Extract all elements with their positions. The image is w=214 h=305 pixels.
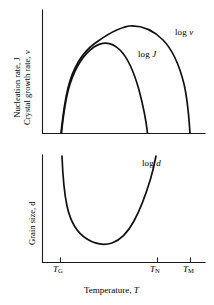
bottom-y-axis-label: Grain size, d <box>27 201 37 245</box>
x-axis-label: Temperature, T <box>84 285 139 295</box>
top-panel-curves <box>61 26 190 133</box>
log-d-curve <box>62 156 156 244</box>
figure-canvas <box>0 0 214 305</box>
log-J-curve <box>62 43 148 133</box>
tick-label-TG: TG <box>53 264 63 274</box>
log-v-curve-label: log v <box>175 27 193 37</box>
top-y-axis-label-line1: Nucleation rate, J <box>12 50 22 125</box>
bottom-panel-curves <box>62 156 156 244</box>
top-y-axis-label-line2: Crystal growth rate, v <box>22 50 32 125</box>
x-axis-ticks <box>61 258 191 263</box>
log-J-curve-label: log J <box>138 49 156 59</box>
log-v-curve <box>61 26 190 133</box>
figure-container: Nucleation rate, J Crystal growth rate, … <box>0 0 214 305</box>
tick-label-TN: TN <box>150 264 160 274</box>
tick-label-TM: TM <box>183 264 194 274</box>
log-d-curve-label: log d <box>142 158 161 168</box>
top-y-axis-label: Nucleation rate, J Crystal growth rate, … <box>12 50 33 125</box>
